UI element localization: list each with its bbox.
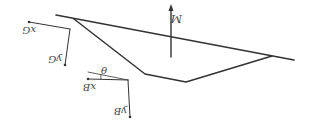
body-y-label: yB: [114, 106, 128, 117]
y-axis-tip-icon: [64, 64, 67, 67]
theta-label: θ: [101, 65, 107, 76]
moment-arrow: M: [169, 4, 184, 57]
global-y-label: yG: [48, 54, 63, 65]
body-frame: θ xB yB: [83, 65, 131, 118]
global-frame: xG yG: [22, 21, 70, 67]
ship-hull-diagram: M xG yG θ xB yB: [0, 0, 311, 136]
arrow-head-icon: [169, 4, 174, 11]
y-axis-tip-icon: [129, 116, 132, 119]
x-axis-tip-icon: [28, 21, 31, 24]
x-axis-tip-icon: [87, 78, 90, 81]
moment-label: M: [170, 12, 183, 25]
global-x-label: xG: [22, 25, 36, 36]
body-x-label: xB: [83, 82, 96, 93]
